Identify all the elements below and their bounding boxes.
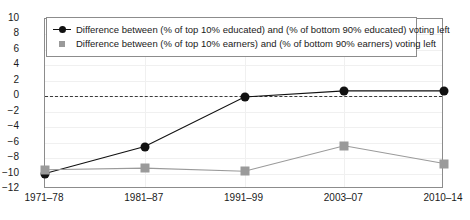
chart-legend: Difference between (% of top 10% educate… — [46, 17, 417, 57]
data-point — [440, 86, 449, 95]
legend-marker-square-icon — [53, 38, 71, 49]
legend-item-earners: Difference between (% of top 10% earners… — [53, 37, 410, 50]
data-point — [340, 86, 349, 95]
series-line-0 — [45, 91, 444, 174]
data-point — [140, 164, 149, 173]
data-point — [440, 159, 449, 168]
y-axis-tick-label: 0 — [13, 90, 19, 100]
legend-item-educated: Difference between (% of top 10% educate… — [53, 23, 410, 36]
x-axis-tick-label: 2010–14 — [424, 192, 463, 203]
x-axis-tick-label: 2003–07 — [324, 192, 363, 203]
legend-marker-circle-icon — [53, 24, 71, 35]
y-axis-tick-label: −4 — [8, 121, 19, 131]
y-axis-tick-label: −8 — [8, 152, 19, 162]
y-axis-tick-label: 10 — [8, 13, 19, 23]
legend-label-earners: Difference between (% of top 10% earners… — [76, 38, 436, 49]
data-point — [340, 141, 349, 150]
y-axis-tick-label: −12 — [2, 183, 19, 193]
x-axis-tick-label: 1981–87 — [124, 192, 163, 203]
x-axis-tick-label: 1991–99 — [224, 192, 263, 203]
legend-label-educated: Difference between (% of top 10% educate… — [76, 24, 450, 35]
y-axis-tick-label: 8 — [13, 28, 19, 38]
data-point — [41, 165, 50, 174]
y-axis-tick-label: 2 — [13, 75, 19, 85]
data-point — [240, 167, 249, 176]
data-point — [140, 142, 149, 151]
y-axis-tick-label: 4 — [13, 59, 19, 69]
x-axis-tick-label: 1971–78 — [25, 192, 64, 203]
y-axis-tick-label: 6 — [13, 44, 19, 54]
data-point — [240, 93, 249, 102]
y-axis-tick-label: −2 — [8, 106, 19, 116]
chart-figure: 1086420−2−4−6−8−10−12 1971–781981–871991… — [0, 0, 470, 220]
y-axis-tick-label: −10 — [2, 168, 19, 178]
y-axis-tick-label: −6 — [8, 137, 19, 147]
